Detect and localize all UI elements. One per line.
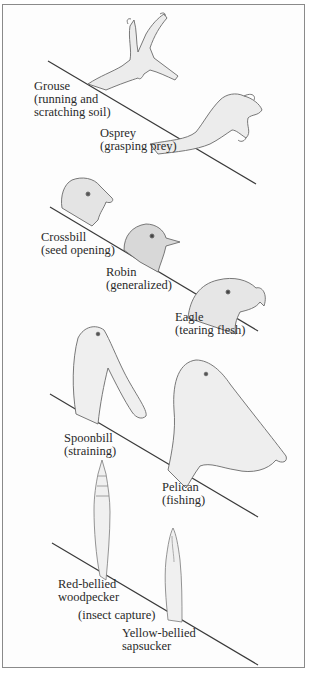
label-woodpecker-name-2: woodpecker	[58, 591, 119, 604]
label-eagle-function: (tearing flesh)	[175, 324, 245, 337]
grouse-foot-icon	[88, 13, 178, 90]
label-pelican: Pelican (fishing)	[162, 481, 205, 507]
label-spoonbill: Spoonbill (straining)	[64, 432, 116, 458]
label-shared-function: (insect capture)	[78, 609, 155, 622]
label-yellow-bellied-sapsucker: Yellow-bellied sapsucker	[122, 627, 196, 653]
pelican-head-icon	[168, 360, 286, 488]
woodpecker-tongue-icon	[94, 460, 110, 580]
label-pelican-function: (fishing)	[162, 494, 205, 507]
label-red-bellied-woodpecker: Red-bellied woodpecker	[58, 578, 119, 604]
sapsucker-tongue-icon	[165, 528, 182, 622]
label-grouse-function-2: scratching soil)	[34, 106, 111, 119]
label-osprey-function: (grasping prey)	[100, 140, 177, 153]
label-crossbill: Crossbill (seed opening)	[41, 231, 115, 257]
label-robin: Robin (generalized)	[106, 266, 172, 292]
label-osprey: Osprey (grasping prey)	[100, 127, 177, 153]
label-spoonbill-function: (straining)	[64, 445, 116, 458]
label-crossbill-function: (seed opening)	[41, 244, 115, 257]
label-robin-function: (generalized)	[106, 279, 172, 292]
label-sapsucker-name-2: sapsucker	[122, 640, 196, 653]
label-grouse: Grouse (running and scratching soil)	[34, 80, 111, 119]
label-eagle: Eagle (tearing flesh)	[175, 311, 245, 337]
spoonbill-head-icon	[73, 327, 146, 424]
label-insect-capture: (insect capture)	[78, 609, 155, 622]
